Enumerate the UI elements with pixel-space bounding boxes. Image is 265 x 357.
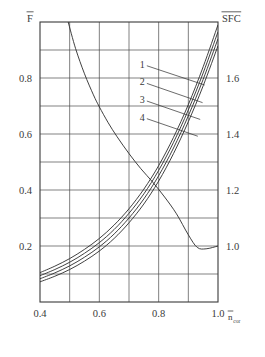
- series-label-4: 4: [140, 112, 145, 123]
- chart-canvas: 0.40.60.81.0 0.20.40.60.8 1.01.21.41.6 1…: [0, 0, 265, 357]
- x-tick-label: 0.6: [93, 308, 106, 319]
- y-axis-right-title: SFC: [222, 12, 242, 24]
- x-tick-label: 0.8: [152, 308, 165, 319]
- y-axis-left-title: F: [27, 12, 34, 24]
- x-axis-title-text: n: [228, 312, 233, 322]
- x-tick-label: 0.4: [33, 308, 47, 319]
- series-label-2: 2: [140, 76, 145, 87]
- y-right-tick-label: 1.2: [226, 185, 239, 196]
- series-label-3: 3: [140, 94, 145, 105]
- y-left-tick-label: 0.8: [19, 73, 32, 84]
- chart-figure: 0.40.60.81.0 0.20.40.60.8 1.01.21.41.6 1…: [0, 0, 265, 357]
- y-right-tick-label: 1.0: [226, 241, 239, 252]
- y-left-tick-label: 0.4: [19, 185, 33, 196]
- y-right-tick-label: 1.6: [226, 73, 239, 84]
- y-axis-right-title-text: SFC: [222, 13, 241, 24]
- y-left-tick-label: 0.2: [19, 241, 32, 252]
- x-axis-title-subscript: cor: [233, 318, 240, 324]
- y-axis-left-title-text: F: [27, 13, 33, 24]
- y-left-tick-label: 0.6: [19, 129, 32, 140]
- x-tick-label: 1.0: [211, 308, 224, 319]
- y-right-tick-label: 1.4: [226, 129, 240, 140]
- series-label-1: 1: [140, 59, 145, 70]
